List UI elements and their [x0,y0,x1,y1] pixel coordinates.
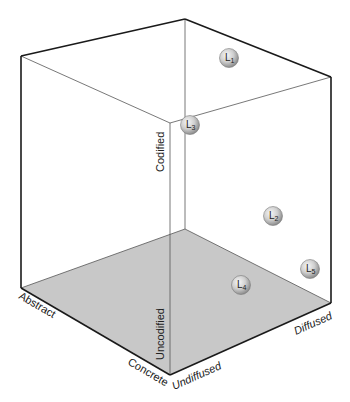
point-subscript: 4 [243,284,247,291]
point-l1: L1 [220,49,239,68]
i-space-cube-diagram: Codified Uncodified Abstract Concrete Un… [0,0,350,402]
label-codified: Codified [154,132,166,172]
label-uncodified: Uncodified [154,308,166,360]
point-subscript: 5 [312,268,316,275]
point-l2: L2 [264,207,283,226]
point-l3: L3 [181,116,200,135]
point-subscript: 1 [231,57,235,64]
point-l4: L4 [232,276,251,295]
cube-floor [21,229,331,375]
point-subscript: 2 [275,215,279,222]
point-l5: L5 [301,260,320,279]
point-subscript: 3 [192,124,196,131]
